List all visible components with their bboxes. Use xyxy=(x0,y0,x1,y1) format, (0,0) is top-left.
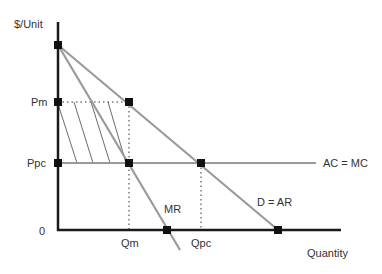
ppc-label: Ppc xyxy=(27,157,46,169)
marker-competitive-point xyxy=(197,159,205,167)
origin-label: 0 xyxy=(39,225,45,237)
marker-monopoly-point xyxy=(125,98,133,106)
qpc-label: Qpc xyxy=(191,237,212,249)
axes xyxy=(57,22,341,231)
marker-mr-zero xyxy=(163,226,171,234)
y-axis-label: $/Unit xyxy=(14,18,43,30)
ac-mc-label: AC = MC xyxy=(323,157,368,169)
marker-demand-zero xyxy=(274,226,282,234)
qm-label: Qm xyxy=(121,237,139,249)
mr-curve xyxy=(58,45,180,250)
hatched-region xyxy=(58,102,126,163)
mr-label: MR xyxy=(164,203,181,215)
monopoly-diagram: $/Unit Pm Ppc 0 Qm Qpc Quantity MR D = A… xyxy=(0,0,382,274)
x-axis-label: Quantity xyxy=(307,247,348,259)
pm-label: Pm xyxy=(31,96,48,108)
demand-label: D = AR xyxy=(257,196,292,208)
marker-ppc xyxy=(54,159,62,167)
marker-mr-mc-intersection xyxy=(125,159,133,167)
marker-pm xyxy=(54,98,62,106)
marker-demand-intercept xyxy=(54,41,62,49)
